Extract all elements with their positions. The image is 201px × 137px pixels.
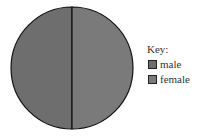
legend-swatch-male <box>148 60 157 69</box>
legend-title: Key: <box>147 43 190 56</box>
legend: Key: male female <box>147 43 190 86</box>
legend-item-female: female <box>147 73 190 86</box>
legend-label-female: female <box>160 73 190 86</box>
pie-slice-male <box>11 7 72 129</box>
legend-label-male: male <box>160 58 181 71</box>
pie-slice-female <box>72 7 133 129</box>
pie-chart <box>0 0 140 137</box>
legend-item-male: male <box>147 58 190 71</box>
legend-swatch-female <box>148 75 157 84</box>
